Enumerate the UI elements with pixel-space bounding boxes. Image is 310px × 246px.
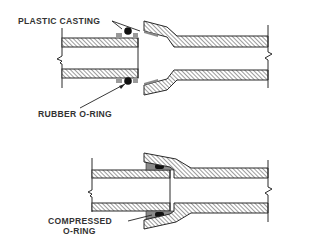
top-view: PLASTIC CASTING RUBBER O-RING <box>18 16 272 119</box>
plastic-casting-block <box>133 78 138 83</box>
label-compressed: COMPRESSED <box>48 216 112 226</box>
rubber-oring-top <box>124 27 132 35</box>
fitting-top <box>144 21 268 47</box>
fitting-bottom <box>144 70 268 95</box>
plastic-casting-block <box>116 78 122 83</box>
leader-line-casting <box>112 21 122 29</box>
left-pipe-break-line <box>57 28 62 88</box>
bottom-view: COMPRESSED O-RING <box>48 153 272 236</box>
left-pipe-top-wall <box>62 38 138 47</box>
left-pipe-bottom-wall <box>62 69 138 78</box>
label-plastic-casting: PLASTIC CASTING <box>18 16 100 26</box>
arrowhead <box>119 84 125 89</box>
leader-line-oring <box>80 84 125 108</box>
pipe-coupling-diagram: PLASTIC CASTING RUBBER O-RING COMPRESSED… <box>0 0 310 246</box>
label-oring: O-RING <box>63 226 96 236</box>
left-pipe-bottom-wall-2 <box>92 203 170 211</box>
left-pipe-top-wall-2 <box>92 170 170 178</box>
label-rubber-oring: RUBBER O-RING <box>38 109 112 119</box>
plastic-casting-block <box>116 33 122 38</box>
plastic-casting-block <box>133 33 138 38</box>
left-pipe-break-line-2 <box>88 158 92 212</box>
rubber-oring-bottom <box>124 77 132 85</box>
